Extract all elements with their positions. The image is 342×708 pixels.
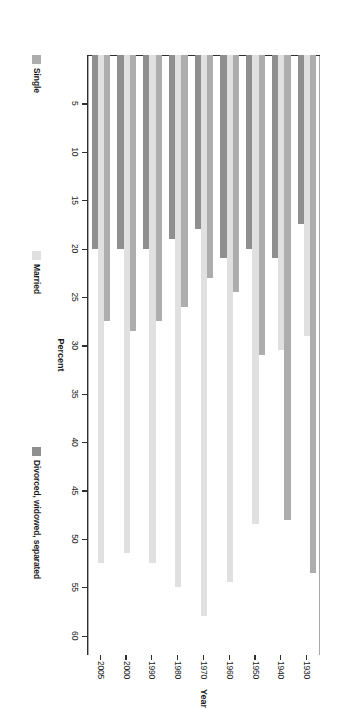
category-tick-label-2000: 2000 [122, 661, 132, 679]
value-tick-label-30: 30 [70, 341, 80, 350]
value-tick-label-45: 45 [70, 486, 80, 495]
bar-married-1930 [304, 55, 310, 336]
category-tick-1950 [254, 655, 255, 660]
value-tick-45 [82, 490, 88, 491]
category-tick-2005 [100, 655, 101, 660]
bar-married-1940 [278, 55, 284, 350]
category-tick-label-1990: 1990 [147, 661, 157, 679]
value-tick-label-35: 35 [70, 389, 80, 398]
bar-married-2005 [98, 55, 104, 563]
bar-single-1990 [156, 55, 162, 321]
category-tick-1960 [229, 655, 230, 660]
bar-divorced-1940 [272, 55, 278, 258]
category-axis-title: Year [88, 689, 320, 708]
bar-single-1960 [233, 55, 239, 292]
category-tick-1990 [151, 655, 152, 660]
value-tick-55 [82, 587, 88, 588]
legend-item-single[interactable]: Single [32, 55, 42, 93]
bar-divorced-1970 [195, 55, 201, 229]
value-axis-title: Percent [56, 55, 66, 655]
value-tick-15 [82, 200, 88, 201]
legend-label-single: Single [32, 68, 42, 93]
value-tick-20 [82, 249, 88, 250]
bar-divorced-2005 [92, 55, 98, 249]
value-tick-label-20: 20 [70, 244, 80, 253]
value-tick-25 [82, 297, 88, 298]
category-tick-2000 [125, 655, 126, 660]
bar-married-1970 [201, 55, 207, 616]
value-tick-label-55: 55 [70, 583, 80, 592]
value-tick-10 [82, 152, 88, 153]
category-tick-label-1940: 1940 [276, 661, 286, 679]
value-tick-40 [82, 442, 88, 443]
bar-single-2005 [104, 55, 110, 321]
value-tick-label-40: 40 [70, 438, 80, 447]
bar-single-1950 [259, 55, 265, 355]
category-tick-label-1930: 1930 [302, 661, 312, 679]
bar-divorced-2000 [117, 55, 123, 249]
bar-single-1930 [310, 55, 316, 573]
category-tick-label-1980: 1980 [173, 661, 183, 679]
value-tick-50 [82, 539, 88, 540]
category-tick-1980 [177, 655, 178, 660]
bar-single-2000 [130, 55, 136, 331]
category-tick-label-1970: 1970 [199, 661, 209, 679]
category-tick-label-2005: 2005 [96, 661, 106, 679]
category-tick-1940 [280, 655, 281, 660]
category-tick-1970 [203, 655, 204, 660]
bar-single-1970 [207, 55, 213, 278]
bar-married-1990 [149, 55, 155, 563]
category-tick-1930 [306, 655, 307, 660]
legend-label-married: Married [32, 264, 42, 294]
legend-label-divorced: Divorced, widowed, separated [32, 460, 42, 579]
legend-item-divorced[interactable]: Divorced, widowed, separated [32, 447, 42, 579]
value-tick-5 [82, 103, 88, 104]
bar-married-1950 [252, 55, 258, 524]
legend-swatch-married-icon [33, 251, 42, 260]
category-tick-label-1960: 1960 [225, 661, 235, 679]
value-tick-label-25: 25 [70, 292, 80, 301]
bar-single-1940 [284, 55, 290, 520]
legend-swatch-divorced-icon [33, 447, 42, 456]
category-tick-label-1950: 1950 [251, 661, 261, 679]
bar-married-1960 [227, 55, 233, 582]
bar-single-1980 [181, 55, 187, 307]
bar-married-2000 [124, 55, 130, 553]
bar-divorced-1960 [221, 55, 227, 258]
value-axis-line [87, 55, 88, 655]
value-tick-30 [82, 345, 88, 346]
bar-married-1980 [175, 55, 181, 587]
value-tick-label-15: 15 [70, 196, 80, 205]
legend-swatch-single-icon [33, 55, 42, 64]
chart-legend: SingleMarriedDivorced, widowed, separate… [20, 55, 42, 655]
legend-item-married[interactable]: Married [32, 251, 42, 294]
bar-divorced-1950 [246, 55, 252, 249]
value-tick-label-50: 50 [70, 534, 80, 543]
bar-divorced-1990 [143, 55, 149, 249]
value-tick-35 [82, 394, 88, 395]
value-tick-label-60: 60 [70, 631, 80, 640]
value-tick-label-5: 5 [70, 101, 80, 106]
bar-divorced-1980 [169, 55, 175, 239]
bar-divorced-1930 [298, 55, 304, 224]
value-tick-label-10: 10 [70, 147, 80, 156]
value-tick-60 [82, 636, 88, 637]
